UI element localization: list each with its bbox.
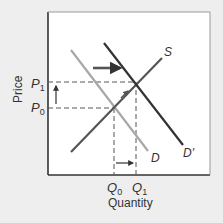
p1-label: P1 bbox=[31, 76, 45, 93]
new-demand-label: D' bbox=[183, 146, 195, 160]
supply-label: S bbox=[164, 45, 172, 59]
demand-label: D bbox=[151, 151, 160, 165]
q0-label: Q0 bbox=[107, 180, 122, 197]
y-axis-label: Price bbox=[11, 75, 25, 103]
supply-demand-diagram: S D D' P1 P0 Q0 Q1 Price Quantity bbox=[0, 0, 223, 223]
q1-label: Q1 bbox=[132, 180, 147, 197]
p0-label: P0 bbox=[31, 100, 45, 117]
x-axis-label: Quantity bbox=[108, 196, 153, 210]
